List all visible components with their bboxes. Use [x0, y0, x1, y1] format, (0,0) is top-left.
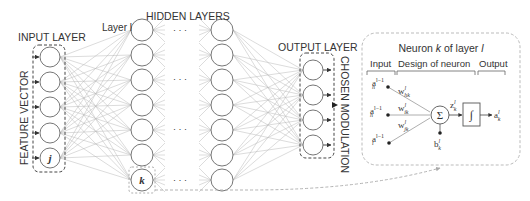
- input-node: [40, 72, 60, 92]
- edge: [199, 150, 211, 155]
- neuron-title: Neuron k of layer l: [398, 42, 484, 54]
- feature-vector-label: FEATURE VECTOR: [18, 70, 30, 165]
- edge: [233, 95, 303, 180]
- section-input-label: Input: [370, 58, 391, 69]
- input-edge: [388, 87, 430, 112]
- bracket-design: [397, 71, 475, 75]
- edge: [153, 50, 165, 55]
- edge: [60, 30, 131, 158]
- input-node: [40, 97, 60, 117]
- activation-symbol: ∫: [469, 108, 474, 122]
- edge: [153, 25, 165, 30]
- edge: [153, 68, 165, 80]
- edge: [199, 155, 211, 167]
- edge: [60, 55, 131, 107]
- sum-symbol: Σ: [437, 109, 443, 121]
- edge: [199, 80, 211, 85]
- edge: [60, 107, 131, 155]
- edge: [199, 130, 211, 142]
- z-label: zlk: [450, 99, 457, 112]
- neural-network-diagram: jk INPUT LAYER HIDDEN LAYERS Layer l OUT…: [0, 0, 530, 201]
- output-a-label: alk: [494, 109, 501, 122]
- edge: [153, 143, 165, 155]
- chosen-modulation-label: CHOSEN MODULATION: [339, 56, 351, 173]
- input-node: [40, 123, 60, 143]
- edge: [153, 80, 165, 92]
- edge: [199, 30, 211, 35]
- output-node: [303, 110, 323, 130]
- edge: [199, 55, 211, 60]
- layer-l-label: Layer l: [102, 22, 132, 33]
- edge: [233, 70, 303, 155]
- ellipsis: · · ·: [173, 25, 187, 35]
- section-output-label: Output: [479, 58, 508, 69]
- edge: [153, 150, 165, 155]
- bracket-output: [478, 71, 505, 75]
- bracket-input: [367, 71, 395, 75]
- hidden-node-layer-l: [131, 69, 153, 91]
- edge: [199, 143, 211, 155]
- input-node: [40, 47, 60, 67]
- edge: [153, 43, 165, 55]
- input-dot: [386, 113, 390, 117]
- edge: [153, 30, 165, 42]
- weight-w1: wlhk: [398, 85, 410, 98]
- edge: [153, 80, 165, 85]
- edge: [153, 30, 165, 35]
- edge: [153, 55, 165, 67]
- edge: [60, 155, 131, 158]
- bias-label: blk: [434, 138, 441, 151]
- edge: [60, 107, 131, 130]
- input-dot: [387, 141, 391, 145]
- hidden-node-layer-last: [211, 169, 233, 191]
- input-a2: al−1h: [370, 105, 382, 118]
- hidden-node-layer-last: [211, 44, 233, 66]
- output-layer-label: OUTPUT LAYER: [278, 41, 358, 53]
- hidden-node-layer-l: [131, 94, 153, 116]
- edge: [199, 25, 211, 30]
- edge: [199, 118, 211, 130]
- ellipsis: · · ·: [173, 74, 187, 84]
- weight-w3: wljk: [398, 119, 409, 132]
- input-dot: [386, 85, 390, 89]
- edge: [199, 175, 211, 180]
- connection-edges: [60, 18, 303, 192]
- edge: [199, 80, 211, 92]
- input-a1: al−1h: [372, 77, 384, 90]
- edge: [153, 105, 165, 117]
- output-node: [303, 60, 323, 80]
- edge: [153, 125, 165, 130]
- edge: [199, 93, 211, 105]
- edge: [199, 130, 211, 135]
- edge: [199, 30, 211, 42]
- edge: [199, 50, 211, 55]
- hidden-node-layer-l: [131, 144, 153, 166]
- hidden-node-layer-l: [131, 19, 153, 41]
- input-edge: [389, 118, 430, 143]
- weight-w2: wlik: [398, 102, 409, 115]
- edge: [199, 68, 211, 80]
- edge: [153, 155, 165, 160]
- edge: [153, 118, 165, 130]
- marked-node-label: k: [139, 174, 145, 186]
- edge: [199, 155, 211, 160]
- input-layer-label: INPUT LAYER: [18, 31, 86, 43]
- bias-dot: [438, 131, 442, 135]
- chosen-arrow-icon: [332, 102, 338, 108]
- ellipsis: · · ·: [173, 124, 187, 134]
- edge: [199, 168, 211, 180]
- hidden-layers-label: HIDDEN LAYERS: [146, 10, 230, 22]
- zoom-connector: [155, 168, 440, 190]
- section-design-label: Design of neuron: [398, 58, 470, 69]
- edge: [153, 100, 165, 105]
- input-a3: al−1i: [372, 133, 384, 146]
- edge: [153, 130, 165, 142]
- edge: [199, 43, 211, 55]
- edge: [199, 55, 211, 67]
- edge: [153, 155, 165, 167]
- edge: [153, 93, 165, 105]
- hidden-node-layer-last: [211, 119, 233, 141]
- hidden-node-layer-last: [211, 144, 233, 166]
- hidden-node-layer-last: [211, 69, 233, 91]
- edge: [153, 130, 165, 135]
